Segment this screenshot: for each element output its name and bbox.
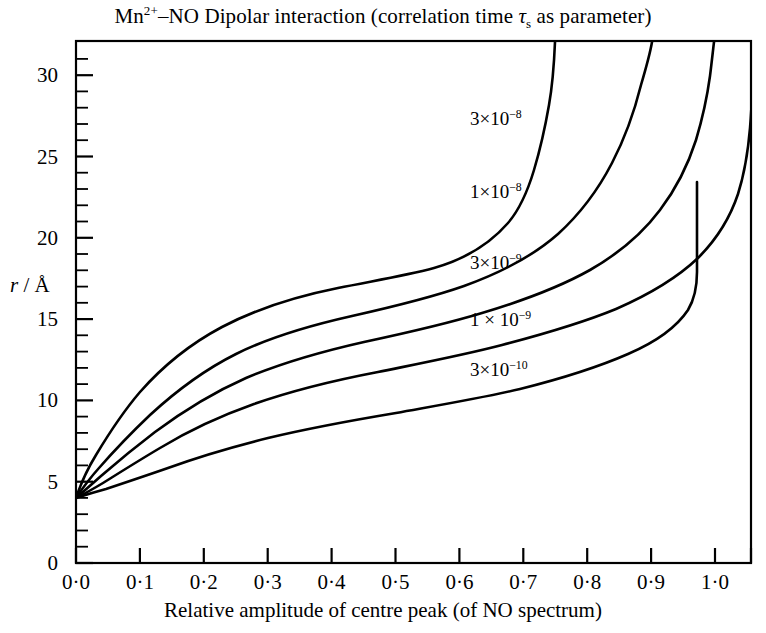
- y-tick-label-25: 25: [18, 144, 58, 169]
- y-tick-label-15: 15: [18, 307, 58, 332]
- curve-label-1e-8: 1×10−8: [470, 181, 522, 203]
- y-axis-title: r / Å: [10, 273, 50, 298]
- x-tick-label-6: 0·6: [445, 570, 473, 595]
- curve-label-1e-8-mantissa: 1×10: [470, 181, 509, 202]
- y-tick-label-0: 0: [18, 551, 58, 576]
- x-tick-label-10: 1·0: [701, 570, 729, 595]
- y-tick-label-30: 30: [18, 63, 58, 88]
- curve-label-3e-9-mantissa: 3×10: [470, 252, 509, 273]
- x-tick-label-2: 0·2: [190, 570, 218, 595]
- curve-label-1e-9-exponent: −9: [519, 309, 532, 322]
- curve-label-3e-10-mantissa: 3×10: [470, 359, 509, 380]
- curve-label-3e-9-exponent: −9: [509, 252, 522, 265]
- x-tick-label-7: 0·7: [509, 570, 537, 595]
- curve-label-1e-9: 1 × 10−9: [470, 309, 531, 331]
- curve-label-3e-8-exponent: −8: [509, 108, 522, 121]
- y-tick-label-5: 5: [18, 469, 58, 494]
- x-tick-label-4: 0·4: [318, 570, 346, 595]
- plot-canvas: [0, 0, 766, 633]
- y-tick-label-20: 20: [18, 225, 58, 250]
- x-tick-label-8: 0·8: [573, 570, 601, 595]
- figure-container: Mn2+–NO Dipolar interaction (correlation…: [0, 0, 766, 633]
- curve-label-3e-8-mantissa: 3×10: [470, 108, 509, 129]
- curve-label-3e-10: 3×10−10: [470, 359, 528, 381]
- x-tick-label-0: 0·0: [62, 570, 90, 595]
- curve-label-3e-10-exponent: −10: [509, 359, 527, 372]
- y-tick-label-10: 10: [18, 388, 58, 413]
- curve-label-1e-8-exponent: −8: [509, 181, 522, 194]
- x-tick-label-3: 0·3: [254, 570, 282, 595]
- x-tick-label-5: 0·5: [382, 570, 410, 595]
- x-axis-title: Relative amplitude of centre peak (of NO…: [0, 598, 766, 623]
- curve-label-1e-9-mantissa: 1 × 10: [470, 309, 519, 330]
- x-tick-label-9: 0·9: [637, 570, 665, 595]
- x-tick-label-1: 0·1: [126, 570, 154, 595]
- curve-label-3e-9: 3×10−9: [470, 252, 522, 274]
- y-axis-title-unit: / Å: [18, 273, 50, 297]
- y-axis-title-variable: r: [10, 273, 18, 297]
- curve-label-3e-8: 3×10−8: [470, 108, 522, 130]
